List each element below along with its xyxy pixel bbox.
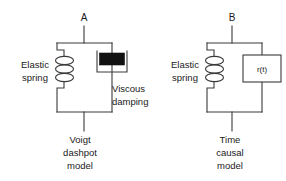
spring-branch-wire-a-lower bbox=[57, 82, 64, 112]
figure-canvas: A Elastic spring Viscous damping bbox=[0, 0, 286, 181]
caption-a-line1: Voigt bbox=[69, 134, 90, 145]
spring-branch-wire-a bbox=[57, 43, 64, 56]
spring-coils-b bbox=[206, 56, 224, 81]
spring-branch-wire-b bbox=[207, 43, 214, 56]
caption-a-line3: model bbox=[67, 160, 93, 171]
panel-voigt-dashpot: A Elastic spring Viscous damping bbox=[21, 12, 148, 171]
panel-time-causal: B r(t) Elastic spring Time causal model bbox=[171, 12, 281, 171]
damping-label-line2: damping bbox=[112, 96, 148, 107]
spring-label-a-line1: Elastic bbox=[21, 59, 49, 70]
spring-branch-wire-b-lower bbox=[207, 82, 214, 112]
node-label-b: B bbox=[229, 12, 236, 23]
rt-element-label: r(t) bbox=[257, 65, 268, 74]
caption-b-line2: causal bbox=[216, 147, 243, 158]
caption-a-line2: dashpot bbox=[63, 147, 97, 158]
spring-label-b-line1: Elastic bbox=[171, 59, 199, 70]
damping-label-line1: Viscous bbox=[112, 83, 145, 94]
dashpot-piston-a bbox=[100, 53, 125, 65]
caption-b-line1: Time bbox=[220, 134, 241, 145]
spring-label-a-line2: spring bbox=[22, 72, 48, 83]
spring-coils-a bbox=[56, 56, 74, 81]
caption-b-line3: model bbox=[217, 160, 243, 171]
node-label-a: A bbox=[81, 12, 88, 23]
spring-label-b-line2: spring bbox=[172, 72, 198, 83]
